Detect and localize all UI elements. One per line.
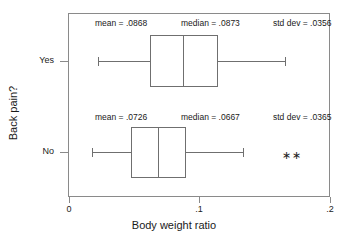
x-axis-title: Body weight ratio (0, 219, 348, 231)
xtick-label-2: .2 (315, 204, 345, 214)
annotation-yes-stddev: std dev = .0356 (273, 18, 331, 28)
whisker-cap-max-yes (285, 57, 286, 66)
annotation-yes-median: median = .0873 (181, 18, 273, 28)
median-line-no (158, 127, 159, 178)
median-line-yes (183, 35, 184, 87)
xtick-1 (199, 197, 200, 203)
ytick-no (60, 152, 69, 153)
ytick-yes (60, 61, 69, 62)
outlier-marker: ∗ (282, 152, 290, 158)
outlier-marker: ∗ (292, 152, 300, 158)
annotation-row-no: mean = .0726median = .0667std dev = .036… (95, 112, 331, 122)
annotation-no-stddev: std dev = .0365 (273, 112, 331, 122)
boxplot-chart: mean = .0868median = .0873std dev = .035… (0, 0, 348, 243)
whisker-cap-min-yes (98, 57, 99, 66)
whisker-right-no (186, 152, 243, 153)
annotation-no-median: median = .0667 (181, 112, 273, 122)
annotation-row-yes: mean = .0868median = .0873std dev = .035… (95, 18, 331, 28)
whisker-cap-max-no (243, 148, 244, 157)
ytick-label-no: No (14, 146, 54, 156)
annotation-no-mean: mean = .0726 (95, 112, 181, 122)
y-axis-title: Back pain? (7, 58, 19, 168)
whisker-right-yes (218, 61, 285, 62)
box-yes (150, 35, 218, 87)
ytick-label-yes: Yes (14, 55, 54, 65)
xtick-2 (330, 197, 331, 203)
annotation-yes-mean: mean = .0868 (95, 18, 181, 28)
xtick-label-1: .1 (184, 204, 214, 214)
whisker-left-no (92, 152, 131, 153)
whisker-left-yes (98, 61, 150, 62)
xtick-label-0: 0 (54, 204, 84, 214)
xtick-0 (69, 197, 70, 203)
whisker-cap-min-no (92, 148, 93, 157)
